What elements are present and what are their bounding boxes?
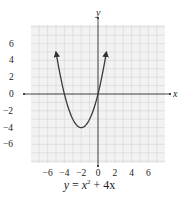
x-tick-label: 4 bbox=[129, 168, 134, 178]
y-tick-label: 2 bbox=[9, 72, 14, 82]
equation-caption: y = x2 + 4x bbox=[0, 178, 179, 193]
x-axis-label: x bbox=[172, 88, 178, 99]
y-tick-label: −6 bbox=[3, 139, 13, 149]
x-tick-label: 2 bbox=[112, 168, 117, 178]
caption-lhs: y bbox=[64, 178, 69, 192]
x-tick-label: −6 bbox=[43, 168, 53, 178]
x-tick-label: −4 bbox=[59, 168, 69, 178]
y-tick-label: −2 bbox=[3, 106, 13, 116]
y-tick-label: 4 bbox=[9, 55, 14, 65]
caption-rest: + 4x bbox=[94, 178, 116, 192]
y-tick-label: 6 bbox=[9, 39, 14, 49]
x-tick-label: 0 bbox=[96, 168, 101, 178]
y-tick-label: 0 bbox=[9, 89, 14, 99]
parabola-graph: xy6420−2−4−6−6−4−20246 bbox=[0, 0, 179, 198]
x-tick-label: 6 bbox=[146, 168, 151, 178]
caption-exponent: 2 bbox=[87, 178, 91, 186]
x-tick-label: −2 bbox=[76, 168, 86, 178]
y-tick-label: −4 bbox=[3, 123, 13, 133]
y-axis-label: y bbox=[95, 7, 101, 18]
